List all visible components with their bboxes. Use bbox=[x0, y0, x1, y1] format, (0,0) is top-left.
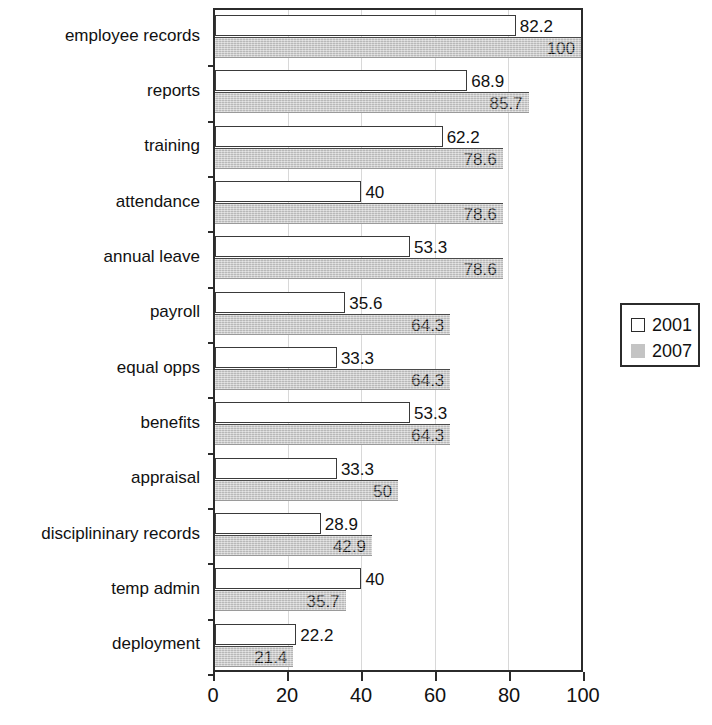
x-axis-tick-80 bbox=[509, 672, 511, 681]
x-axis-label-100: 100 bbox=[566, 684, 599, 707]
category-label-deployment: deployment bbox=[112, 634, 200, 653]
bar-row: 42.9 bbox=[215, 535, 581, 556]
bar-value-label: 64.3 bbox=[411, 370, 444, 391]
bar-value-label: 35.7 bbox=[307, 591, 340, 612]
bar-2001-employee-records: 82.2 bbox=[215, 15, 516, 36]
y-axis-tick bbox=[208, 397, 215, 399]
bar-row: 40 bbox=[215, 181, 581, 202]
bar-row: 53.3 bbox=[215, 402, 581, 423]
x-axis-label-40: 40 bbox=[350, 684, 372, 707]
bar-value-label: 35.6 bbox=[349, 293, 382, 314]
bar-2001-training: 62.2 bbox=[215, 126, 443, 147]
bar-2001-equal-opps: 33.3 bbox=[215, 347, 337, 368]
bar-row: 64.3 bbox=[215, 424, 581, 445]
x-axis-tick-labels: 020406080100 bbox=[213, 684, 583, 714]
bar-row: 62.2 bbox=[215, 126, 581, 147]
y-axis-tick bbox=[208, 287, 215, 289]
bar-row: 50 bbox=[215, 480, 581, 501]
bar-value-label: 82.2 bbox=[520, 16, 553, 37]
bar-value-label: 78.6 bbox=[464, 204, 497, 225]
y-axis-tick bbox=[208, 453, 215, 455]
bar-2007-payroll: 64.3 bbox=[215, 314, 450, 335]
bar-value-label: 100 bbox=[547, 38, 575, 59]
category-label-annual-leave: annual leave bbox=[104, 247, 200, 266]
bar-row: 82.2 bbox=[215, 15, 581, 36]
y-axis-tick bbox=[208, 231, 215, 233]
category-label-equal-opps: equal opps bbox=[117, 358, 200, 377]
category-label-payroll: payroll bbox=[150, 302, 200, 321]
x-axis-tick-100 bbox=[583, 672, 585, 681]
bar-row: 28.9 bbox=[215, 513, 581, 534]
bar-row: 78.6 bbox=[215, 203, 581, 224]
x-axis-tick-60 bbox=[435, 672, 437, 681]
bar-2001-benefits: 53.3 bbox=[215, 402, 410, 423]
x-axis-tick-0 bbox=[213, 672, 215, 681]
bar-row: 22.2 bbox=[215, 624, 581, 645]
legend-label-2001: 2001 bbox=[652, 316, 692, 334]
y-axis-tick bbox=[208, 619, 215, 621]
category-label-reports: reports bbox=[147, 81, 200, 100]
bar-value-label: 62.2 bbox=[447, 127, 480, 148]
y-axis-tick bbox=[208, 508, 215, 510]
category-axis-labels: employee recordsreportstrainingattendanc… bbox=[0, 0, 206, 725]
bar-2001-disciplininary-records: 28.9 bbox=[215, 513, 321, 534]
legend-label-2007: 2007 bbox=[652, 342, 692, 360]
category-label-attendance: attendance bbox=[116, 192, 200, 211]
bar-value-label: 22.2 bbox=[300, 625, 333, 646]
bar-row: 78.6 bbox=[215, 258, 581, 279]
plot-area: 82.210068.985.762.278.64078.653.378.635.… bbox=[213, 8, 583, 672]
bar-2007-employee-records: 100 bbox=[215, 37, 581, 58]
bar-2001-reports: 68.9 bbox=[215, 70, 467, 91]
bar-2007-attendance: 78.6 bbox=[215, 203, 503, 224]
x-axis-ticks bbox=[213, 672, 583, 682]
bar-2007-training: 78.6 bbox=[215, 148, 503, 169]
bar-2007-temp-admin: 35.7 bbox=[215, 590, 346, 611]
x-axis-label-60: 60 bbox=[424, 684, 446, 707]
bar-value-label: 50 bbox=[373, 481, 392, 502]
y-axis-tick bbox=[208, 65, 215, 67]
bar-value-label: 28.9 bbox=[325, 514, 358, 535]
bar-2007-reports: 85.7 bbox=[215, 92, 529, 113]
bar-row: 64.3 bbox=[215, 314, 581, 335]
bar-value-label: 40 bbox=[365, 569, 384, 590]
category-label-employee-records: employee records bbox=[65, 26, 200, 45]
x-axis-tick-40 bbox=[361, 672, 363, 681]
bar-value-label: 40 bbox=[365, 182, 384, 203]
legend-swatch-2001-icon bbox=[631, 318, 645, 332]
bar-row: 33.3 bbox=[215, 347, 581, 368]
x-axis-label-0: 0 bbox=[207, 684, 218, 707]
category-label-benefits: benefits bbox=[140, 413, 200, 432]
bar-2001-payroll: 35.6 bbox=[215, 292, 345, 313]
bar-2007-appraisal: 50 bbox=[215, 480, 398, 501]
y-axis-tick bbox=[208, 342, 215, 344]
bar-value-label: 64.3 bbox=[411, 315, 444, 336]
category-label-appraisal: appraisal bbox=[131, 468, 200, 487]
y-axis-tick bbox=[208, 176, 215, 178]
bar-2007-benefits: 64.3 bbox=[215, 424, 450, 445]
bar-2001-deployment: 22.2 bbox=[215, 624, 296, 645]
bar-2007-annual-leave: 78.6 bbox=[215, 258, 503, 279]
bar-row: 85.7 bbox=[215, 92, 581, 113]
bar-value-label: 78.6 bbox=[464, 259, 497, 280]
bar-value-label: 68.9 bbox=[471, 71, 504, 92]
bar-2007-deployment: 21.4 bbox=[215, 646, 293, 667]
bar-value-label: 85.7 bbox=[490, 93, 523, 114]
bar-value-label: 33.3 bbox=[341, 348, 374, 369]
bar-value-label: 42.9 bbox=[333, 536, 366, 557]
bar-row: 64.3 bbox=[215, 369, 581, 390]
category-label-training: training bbox=[144, 136, 200, 155]
bar-row: 100 bbox=[215, 37, 581, 58]
bar-2007-equal-opps: 64.3 bbox=[215, 369, 450, 390]
category-label-temp-admin: temp admin bbox=[111, 579, 200, 598]
bar-row: 33.3 bbox=[215, 458, 581, 479]
bar-row: 35.7 bbox=[215, 590, 581, 611]
bar-row: 35.6 bbox=[215, 292, 581, 313]
legend-swatch-2007-icon bbox=[631, 344, 645, 358]
bar-value-label: 78.6 bbox=[464, 149, 497, 170]
bar-value-label: 64.3 bbox=[411, 425, 444, 446]
y-axis-tick bbox=[208, 563, 215, 565]
y-axis-tick bbox=[208, 121, 215, 123]
bar-2001-temp-admin: 40 bbox=[215, 568, 361, 589]
legend-entry-2001: 2001 bbox=[631, 312, 698, 338]
x-axis-label-80: 80 bbox=[498, 684, 520, 707]
